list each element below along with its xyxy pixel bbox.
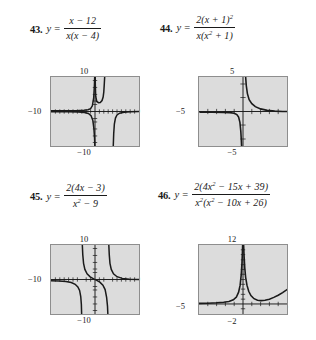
graph-figure-46: 12 −2 −5 5 [176, 236, 288, 322]
graph-43-left-branch [51, 112, 95, 146]
variable-y-45: y [47, 191, 52, 202]
numerator-43: x − 12 [67, 16, 98, 28]
textbook-page: 43. y = x − 12 x(x − 4) 44. y = 2(x + 1)… [0, 0, 316, 340]
graph-45-inner: 10 −10 −10 10 [28, 236, 140, 322]
denominator-44-pre: x(x [196, 31, 209, 42]
graph-43-inner: 10 −10 −10 10 [28, 68, 140, 154]
graph-44-plot-area [198, 76, 288, 147]
equation-45: 45. y = 2(4x − 3) x2 − 9 [30, 183, 107, 209]
problem-number-45: 45. [30, 190, 43, 202]
graph-46-label-left: −5 [176, 302, 185, 311]
denominator-45-post: − 9 [81, 198, 98, 209]
numerator-44-exponent: 2 [230, 13, 233, 20]
numerator-46-pre: 2(4x [194, 181, 212, 192]
graph-45-svg [51, 245, 139, 314]
graph-43-label-bottom: −10 [77, 148, 90, 157]
graph-46-inner: 12 −2 −5 5 [176, 236, 288, 322]
denominator-44-post: + 1) [212, 31, 233, 42]
problem-number-46: 46. [158, 189, 171, 201]
graph-43-plot-area [50, 76, 140, 147]
denominator-43: x(x − 4) [64, 29, 101, 41]
numerator-44: 2(x + 1)2 [194, 14, 235, 27]
fraction-44: 2(x + 1)2 x(x2 + 1) [194, 14, 235, 42]
variable-y-44: y [177, 22, 182, 33]
equals-sign-46: = [182, 189, 188, 200]
problem-44: 44. y = 2(x + 1)2 x(x2 + 1) [160, 14, 235, 42]
numerator-46: 2(4x2 − 15x + 39) [192, 181, 270, 194]
equation-43: 43. y = x − 12 x(x − 4) [30, 16, 101, 41]
equation-46: 46. y = 2(4x2 − 15x + 39) x2(x2 − 10x + … [158, 181, 270, 209]
graph-43-label-left: −10 [28, 107, 41, 116]
problem-number-44: 44. [160, 22, 173, 34]
graph-figure-44: 5 −5 −5 5 [176, 68, 288, 154]
fraction-46: 2(4x2 − 15x + 39) x2(x2 − 10x + 26) [192, 181, 270, 209]
fraction-45: 2(4x − 3) x2 − 9 [64, 183, 107, 209]
graph-44-svg [199, 77, 287, 146]
graph-45-label-top: 10 [80, 235, 89, 244]
variable-y-43: y [47, 23, 52, 34]
graph-46-svg [199, 245, 287, 314]
numerator-46-post: − 15x + 39) [216, 181, 268, 192]
graph-43-label-top: 10 [80, 67, 89, 76]
graph-46-label-top: 12 [228, 235, 237, 244]
equals-sign-45: = [54, 191, 60, 202]
denominator-44: x(x2 + 1) [194, 28, 234, 41]
graph-44-inner: 5 −5 −5 5 [176, 68, 288, 154]
equals-sign-44: = [184, 22, 190, 33]
denominator-46-post: − 10x + 26) [215, 198, 267, 209]
denominator-46: x2(x2 − 10x + 26) [193, 195, 269, 208]
denominator-45: x2 − 9 [71, 196, 100, 209]
graph-figure-43: 10 −10 −10 10 [28, 68, 140, 154]
numerator-45: 2(4x − 3) [64, 183, 107, 195]
problem-45: 45. y = 2(4x − 3) x2 − 9 [30, 183, 107, 209]
graph-45-plot-area [50, 244, 140, 315]
problem-43: 43. y = x − 12 x(x − 4) [30, 16, 101, 41]
graph-46-plot-area [198, 244, 288, 315]
graph-45-label-left: −10 [28, 275, 41, 284]
graph-44-label-top: 5 [230, 67, 234, 76]
fraction-43: x − 12 x(x − 4) [64, 16, 101, 41]
numerator-44-base: 2(x + 1) [196, 14, 230, 25]
equation-44: 44. y = 2(x + 1)2 x(x2 + 1) [160, 14, 235, 42]
problem-46: 46. y = 2(4x2 − 15x + 39) x2(x2 − 10x + … [158, 181, 270, 209]
graph-43-curve [51, 77, 95, 111]
variable-y-46: y [175, 189, 180, 200]
graph-figure-45: 10 −10 −10 10 [28, 236, 140, 322]
equals-sign-43: = [54, 23, 60, 34]
problem-number-43: 43. [30, 23, 43, 35]
graph-43-svg [51, 77, 139, 146]
graph-46-label-bottom: −2 [227, 317, 236, 326]
graph-44-label-bottom: −5 [227, 148, 236, 157]
graph-45-label-bottom: −10 [77, 316, 90, 325]
graph-44-label-left: −5 [176, 107, 185, 116]
denominator-46-mid: (x [203, 198, 211, 209]
